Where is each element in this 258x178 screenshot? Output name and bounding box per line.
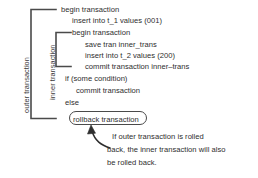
inner-transaction-bracket [56, 33, 71, 67]
code-line-commit-inner: commit transaction inner–trans [85, 62, 189, 71]
nested-transaction-diagram: outer transaction inner transaction begi… [0, 0, 258, 178]
caption-line-3: be rolled back. [107, 158, 157, 167]
outer-transaction-label: outer transaction [22, 57, 31, 113]
caption-line-2: back, the inner transaction will also [107, 145, 226, 154]
code-line-begin-inner: begin transaction [72, 28, 130, 37]
code-line-commit-outer: commit transaction [76, 86, 140, 95]
inner-transaction-label: inner transaction [48, 45, 57, 101]
code-line-else: else [65, 98, 79, 107]
code-line-if-condition: if (some condition) [65, 74, 127, 83]
rollback-statement-box: rollback transaction [69, 111, 147, 125]
code-line-rollback: rollback transaction [73, 115, 139, 124]
code-line-begin-outer: begin transaction [61, 5, 119, 14]
caption-line-1: If outer transaction is rolled [112, 132, 204, 141]
code-line-save-tran: save tran inner_trans [85, 40, 157, 49]
code-line-insert-t1: insert into t_1 values (001) [72, 16, 162, 25]
code-line-insert-t2: insert into t_2 values (200) [85, 51, 175, 60]
